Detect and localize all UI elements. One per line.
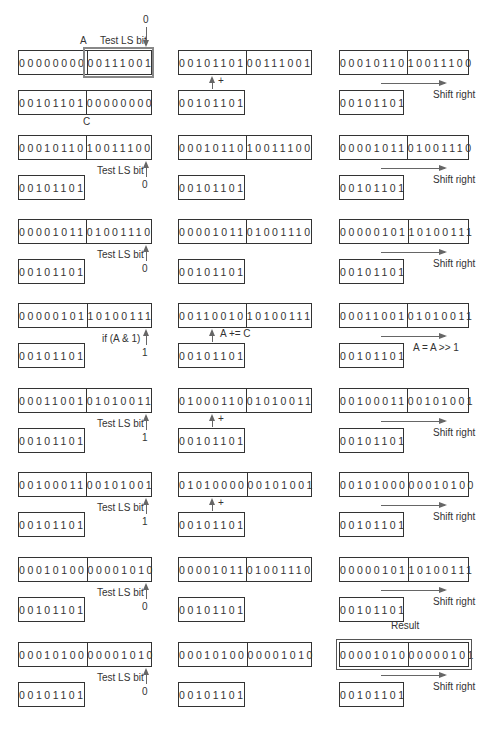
- register-c-value: 00101101: [340, 344, 407, 367]
- arrow-up-icon: [146, 416, 147, 430]
- register-c-value: 00101101: [179, 260, 246, 283]
- register-a-low: 01010011: [246, 389, 314, 412]
- register-a-pair-shifted: 00101000 00010100: [339, 472, 469, 497]
- register-a-high: 00000101: [340, 558, 408, 581]
- register-a-high: 00001011: [340, 136, 407, 159]
- label-test-ls-bit: Test LS bit: [97, 587, 144, 598]
- register-c-value: 00101101: [19, 513, 86, 536]
- register-a-low: 01001110: [407, 136, 474, 159]
- register-c-low: 00000000: [86, 91, 155, 114]
- register-a-pair: 00010100 00001010: [18, 557, 152, 582]
- register-a-pair: 00010100 00001010: [18, 642, 152, 667]
- label-shift-right: Shift right: [433, 427, 475, 438]
- label-c: C: [83, 116, 90, 127]
- arrow-right-icon: [381, 421, 445, 422]
- label-shift-right: Shift right: [433, 174, 475, 185]
- register-a-low: 00101001: [86, 473, 155, 496]
- register-c-value: 00101101: [19, 260, 86, 283]
- arrow-up-icon: [212, 416, 213, 427]
- register-a-low: 00001010: [87, 558, 156, 581]
- register-a-low: 01010011: [407, 304, 475, 327]
- register-c-value: 00101101: [340, 176, 407, 199]
- label-shift-right: Shift right: [433, 89, 475, 100]
- register-a-low: 00001010: [247, 643, 316, 666]
- register-a-low: 00101001: [247, 473, 316, 496]
- register-a-pair: 00000101 10100111: [18, 303, 152, 328]
- label-shift-right: Shift right: [433, 681, 475, 692]
- register-c: 00101101: [178, 259, 245, 284]
- register-a-high: 00011001: [340, 304, 407, 327]
- label-test-ls-bit: Test LS bit: [97, 165, 144, 176]
- register-c: 00101101: [178, 90, 245, 115]
- label-bit-value: 0: [142, 686, 148, 697]
- register-a-pair-shifted: 00010110 10011100: [339, 50, 469, 75]
- register-a-low: 10011100: [246, 136, 313, 159]
- register-c: 00101101: [178, 682, 245, 707]
- register-c: 00101101: [178, 428, 245, 453]
- label-bit-value: 1: [142, 432, 148, 443]
- register-a-low: 10011100: [407, 51, 474, 74]
- register-a-pair-after-add: 01010000 00101001: [178, 472, 312, 497]
- register-a-high: 00101101: [179, 51, 246, 74]
- arrow-up-icon: [212, 331, 213, 342]
- label-shift-right: Shift right: [433, 596, 475, 607]
- lsb-highlight-box: [83, 47, 154, 78]
- arrow-right-icon: [381, 675, 445, 676]
- label-bit-value: 0: [142, 179, 148, 190]
- register-c: 00101101: [178, 343, 245, 368]
- register-a-pair-shifted: 00001011 01001110: [339, 135, 469, 160]
- register-c: 00101101: [339, 428, 404, 453]
- register-a-high: 00010110: [19, 136, 86, 159]
- register-a-pair: 00011001 01010011: [18, 388, 152, 413]
- register-a-pair-after-add: 00010110 10011100: [178, 135, 312, 160]
- register-c-value: 00101101: [19, 598, 86, 621]
- register-c-value: 00101101: [179, 598, 246, 621]
- register-a-low: 10100111: [408, 220, 475, 243]
- register-c: 00101101: [339, 175, 404, 200]
- label-bit-value: 1: [142, 516, 148, 527]
- register-c: 00101101: [339, 512, 404, 537]
- label-test-ls-bit: Test LS bit: [97, 502, 144, 513]
- label-result: Result: [391, 620, 419, 631]
- register-c: 00101101: [178, 597, 245, 622]
- register-c-value: 00101101: [340, 429, 407, 452]
- arrow-up-icon: [212, 500, 213, 511]
- register-c-high: 00101101: [19, 91, 86, 114]
- register-c-value: 00101101: [340, 513, 407, 536]
- register-a-low: 00101001: [407, 389, 476, 412]
- register-a-pair-after-add: 00001011 01001110: [178, 557, 312, 582]
- label-shift-right: Shift right: [433, 258, 475, 269]
- register-a-high: 00001011: [19, 220, 86, 243]
- register-c-value: 00101101: [340, 91, 407, 114]
- register-a-pair-after-add: 00010100 00001010: [178, 642, 312, 667]
- label-a: A: [80, 35, 87, 46]
- register-a-high: 00000101: [19, 304, 87, 327]
- register-a-high: 00101000: [340, 473, 408, 496]
- label-add: +: [218, 75, 224, 86]
- register-c: 00101101: [178, 512, 245, 537]
- label-shift-right: A = A >> 1: [413, 342, 459, 353]
- register-a-high: 00001010: [340, 643, 408, 666]
- register-a-high: 00000101: [340, 220, 408, 243]
- label-bit-value: 1: [142, 347, 148, 358]
- register-c-value: 00101101: [19, 683, 86, 706]
- register-c: 00101101: [178, 175, 245, 200]
- label-shift-right: Shift right: [433, 511, 475, 522]
- register-a-pair-shifted: 00000101 10100111: [339, 219, 469, 244]
- register-a-low: 01001110: [246, 220, 313, 243]
- register-c: 00101101: [339, 259, 404, 284]
- register-c-value: 00101101: [179, 176, 246, 199]
- register-a-low: 01001110: [246, 558, 313, 581]
- register-c-value: 00101101: [179, 513, 246, 536]
- result-register-pair: 00001010 00000101: [339, 642, 469, 667]
- register-a-high: 00010100: [179, 643, 247, 666]
- register-c-pair: 00101101 00000000: [18, 90, 152, 115]
- arrow-right-icon: [381, 83, 445, 84]
- label-bit-value: 0: [142, 263, 148, 274]
- register-a-high: 00100011: [340, 389, 407, 412]
- label-add: +: [218, 413, 224, 424]
- register-c: 00101101: [18, 682, 85, 707]
- register-c: 00101101: [339, 90, 404, 115]
- arrow-up-icon: [146, 163, 147, 177]
- register-a-low: 00001010: [87, 643, 156, 666]
